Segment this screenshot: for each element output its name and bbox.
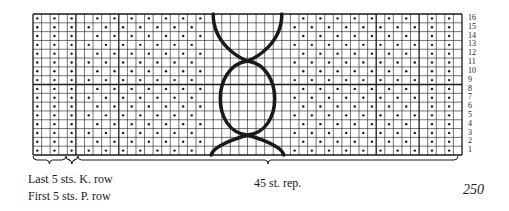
last-stitches-caption: Last 5 sts. K. row: [28, 172, 113, 187]
page-number: 250: [463, 182, 484, 198]
repeat-caption: 45 st. rep.: [254, 176, 301, 191]
first-stitches-caption: First 5 sts. P. row: [28, 189, 111, 204]
row-label: 1: [468, 146, 472, 155]
